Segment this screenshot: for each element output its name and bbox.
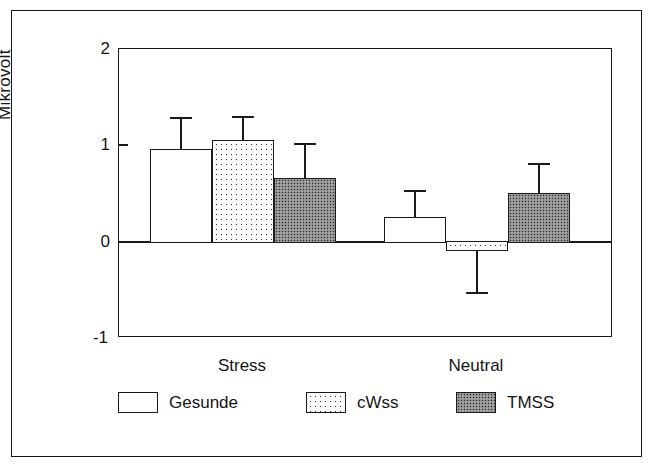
errorbar-stem-stress-cwss (242, 116, 244, 140)
legend-swatch-tmss-icon (456, 392, 496, 413)
errorbar-cap-neutral-cwss (466, 292, 488, 294)
errorbar-stem-stress-gesunde (180, 117, 182, 150)
plot-area (118, 48, 612, 337)
errorbar-cap-stress-cwss (232, 116, 254, 118)
legend-swatch-cwss-icon (306, 392, 346, 413)
y-tick-mark-1 (119, 144, 128, 146)
legend-label-cwss: cWss (357, 394, 399, 411)
legend-label-tmss: TMSS (507, 394, 554, 411)
x-group-label-stress: Stress (218, 356, 266, 376)
legend-item-tmss: TMSS (456, 392, 554, 413)
legend: Gesunde cWss TMSS (118, 392, 612, 422)
errorbar-cap-stress-gesunde (170, 117, 192, 119)
bar-stress-gesunde (150, 149, 212, 243)
legend-swatch-gesunde-icon (118, 392, 158, 413)
legend-label-gesunde: Gesunde (169, 394, 238, 411)
bar-stress-cwss (212, 140, 274, 243)
x-group-label-neutral: Neutral (449, 356, 504, 376)
errorbar-stem-neutral-gesunde (414, 190, 416, 218)
errorbar-stem-neutral-cwss (476, 250, 478, 293)
legend-item-cwss: cWss (306, 392, 399, 413)
errorbar-cap-neutral-tmss (528, 163, 550, 165)
bar-neutral-tmss (508, 193, 570, 243)
bar-neutral-gesunde (384, 217, 446, 243)
errorbar-cap-neutral-gesunde (404, 190, 426, 192)
errorbar-stem-stress-tmss (304, 143, 306, 180)
bar-stress-tmss (274, 178, 336, 243)
legend-item-gesunde: Gesunde (118, 392, 238, 413)
plot-inner (119, 49, 611, 336)
errorbar-cap-stress-tmss (294, 143, 316, 145)
figure: 2 1 0 -1 Mikrovolt (0, 0, 653, 468)
errorbar-stem-neutral-tmss (538, 163, 540, 194)
